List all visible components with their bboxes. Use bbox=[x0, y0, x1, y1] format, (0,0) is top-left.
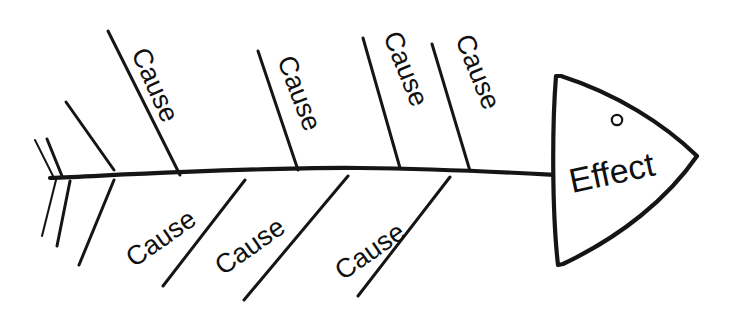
lower-cause-label-1[interactable]: Cause bbox=[120, 204, 201, 273]
upper-cause-label-3[interactable]: Cause bbox=[377, 27, 434, 111]
upper-cause-label-4[interactable]: Cause bbox=[449, 30, 506, 114]
tail-line-upper-inner bbox=[66, 102, 114, 170]
fishbone-diagram: Cause Cause Cause Cause Cause Cause Caus… bbox=[0, 0, 732, 332]
upper-cause-label-2[interactable]: Cause bbox=[271, 51, 327, 135]
upper-cause-labels: Cause Cause Cause Cause bbox=[126, 27, 507, 135]
fish-tail bbox=[35, 102, 114, 265]
tail-line-lower-inner bbox=[79, 180, 114, 265]
tail-line-lower-outer bbox=[42, 180, 56, 236]
fish-head-effect[interactable]: Effect bbox=[553, 76, 697, 265]
fishbone-diagram-canvas: Cause Cause Cause Cause Cause Cause Caus… bbox=[0, 0, 732, 332]
tail-line-lower-middle bbox=[57, 181, 70, 246]
lower-cause-label-2[interactable]: Cause bbox=[209, 212, 290, 281]
fish-spine bbox=[50, 168, 558, 178]
lower-cause-label-3[interactable]: Cause bbox=[329, 217, 410, 286]
